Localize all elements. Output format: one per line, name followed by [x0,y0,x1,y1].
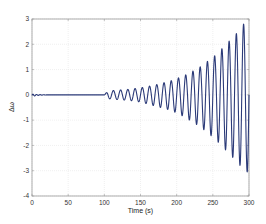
x-axis-label: Time (s) [128,207,153,215]
x-tick-label: 150 [135,199,146,206]
chart-background [0,0,266,224]
x-tick-label: 100 [99,199,110,206]
y-tick-label: 2 [25,41,29,48]
y-tick-label: -1 [23,116,29,123]
y-tick-label: 1 [25,66,29,73]
y-axis-label: Δω [8,101,15,112]
y-tick-label: 0 [25,91,29,98]
y-tick-label: -4 [23,192,29,199]
x-tick-label: 300 [244,199,255,206]
y-tick-label: -2 [23,142,29,149]
x-tick-label: 250 [207,199,218,206]
y-tick-label: -3 [23,167,29,174]
x-tick-label: 200 [171,199,182,206]
line-chart: 050100150200250300 -4-3-2-10123 Time (s)… [0,0,266,224]
x-tick-label: 50 [65,199,73,206]
y-tick-label: 3 [25,15,29,22]
x-tick-label: 0 [30,199,34,206]
